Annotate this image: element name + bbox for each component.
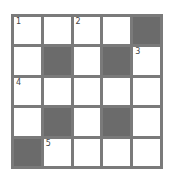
black-cell	[103, 108, 130, 135]
clue-number: 3	[135, 48, 140, 56]
clue-number: 1	[16, 18, 21, 26]
crossword-cell[interactable]	[74, 139, 101, 166]
crossword-cell[interactable]	[133, 108, 160, 135]
crossword-cell[interactable]	[14, 47, 41, 74]
clue-number: 4	[16, 79, 21, 87]
crossword-cell[interactable]	[14, 108, 41, 135]
crossword-cell[interactable]: 5	[44, 139, 71, 166]
crossword-cell[interactable]	[103, 78, 130, 105]
crossword-cell[interactable]	[74, 47, 101, 74]
crossword-cell[interactable]	[103, 139, 130, 166]
crossword-cell[interactable]	[44, 17, 71, 44]
crossword-cell[interactable]	[133, 139, 160, 166]
black-cell	[44, 108, 71, 135]
clue-number: 5	[46, 140, 51, 148]
crossword-cell[interactable]	[133, 78, 160, 105]
black-cell	[103, 47, 130, 74]
crossword-cell[interactable]: 3	[133, 47, 160, 74]
black-cell	[133, 17, 160, 44]
crossword-cell[interactable]: 2	[74, 17, 101, 44]
crossword-cell[interactable]	[44, 78, 71, 105]
crossword-grid: 12345	[11, 14, 163, 169]
crossword-cell[interactable]	[103, 17, 130, 44]
clue-number: 2	[76, 18, 81, 26]
crossword-cell[interactable]: 1	[14, 17, 41, 44]
black-cell	[44, 47, 71, 74]
crossword-cell[interactable]	[74, 108, 101, 135]
crossword-cell[interactable]: 4	[14, 78, 41, 105]
crossword-cell[interactable]	[74, 78, 101, 105]
black-cell	[14, 139, 41, 166]
